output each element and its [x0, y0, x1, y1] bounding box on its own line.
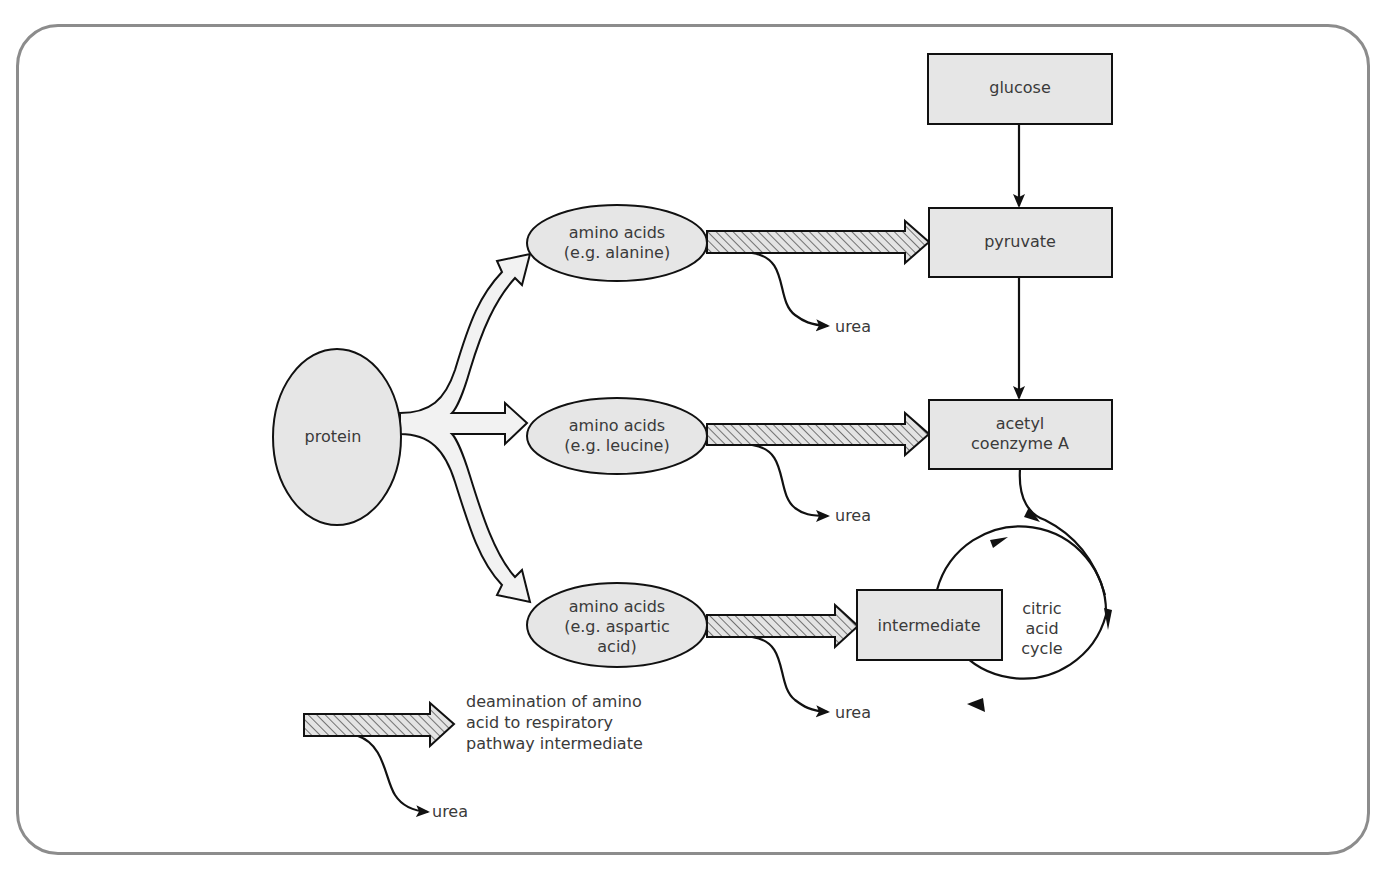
intermediate-label: intermediate	[878, 616, 981, 636]
acetyl-arrowhead-icon	[1024, 507, 1040, 522]
legend-urea-arrow	[358, 736, 428, 812]
glucose-label: glucose	[989, 78, 1051, 98]
citric-acid-cycle-label: citric acid cycle	[1021, 599, 1062, 659]
urea-arrow-2	[752, 445, 828, 516]
deamination-arrow-leucine	[707, 413, 929, 455]
protein-label: protein	[305, 427, 362, 447]
urea-label-1: urea	[835, 317, 871, 337]
acetyl-coa-label: acetyl coenzyme A	[971, 414, 1069, 454]
amino-acids-aspartic-label: amino acids (e.g. aspartic acid)	[564, 597, 670, 657]
urea-label-2: urea	[835, 506, 871, 526]
amino-acids-leucine-label: amino acids (e.g. leucine)	[564, 416, 669, 456]
deamination-arrow-aspartic	[707, 605, 858, 647]
acetyl-to-cycle-arrow	[1020, 469, 1105, 595]
legend-hatched-arrow	[304, 703, 454, 746]
deamination-arrow-alanine	[707, 221, 929, 263]
protein-fork-arrows	[400, 254, 530, 602]
pyruvate-label: pyruvate	[984, 232, 1056, 252]
legend-description: deamination of amino acid to respiratory…	[466, 691, 643, 754]
amino-acids-alanine-label: amino acids (e.g. alanine)	[564, 223, 670, 263]
urea-label-3: urea	[835, 703, 871, 723]
urea-arrow-3	[752, 637, 828, 712]
urea-arrow-1	[752, 253, 828, 326]
diagram-canvas	[0, 0, 1385, 873]
legend-urea-label: urea	[432, 802, 468, 822]
